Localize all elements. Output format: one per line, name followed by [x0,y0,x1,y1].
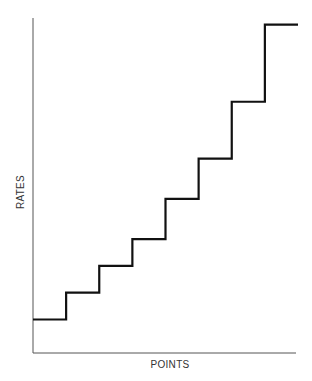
step-chart: POINTS RATES [0,0,312,381]
step-line [33,25,298,320]
x-axis-label: POINTS [150,359,189,370]
y-axis-label: RATES [15,175,26,209]
